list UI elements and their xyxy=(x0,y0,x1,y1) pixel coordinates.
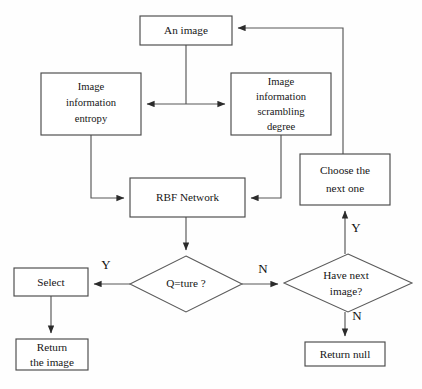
node-select-label: Select xyxy=(37,276,65,288)
edge-label-have-next-yes: Y xyxy=(351,220,361,235)
node-have-next-image-line-2: image? xyxy=(330,285,362,297)
node-an-image[interactable]: An image xyxy=(140,16,232,45)
edge-scrambling-to-rbf xyxy=(251,135,281,198)
node-image-information-entropy-line-2: information xyxy=(66,97,117,108)
node-rbf-network[interactable]: RBF Network xyxy=(130,178,245,217)
node-return-the-image[interactable]: Return the image xyxy=(16,339,88,370)
node-choose-the-next-one-line-1: Choose the xyxy=(320,164,370,176)
edge-label-q-yes: Y xyxy=(101,257,111,272)
node-image-information-scrambling-degree-line-2: information xyxy=(256,91,307,102)
node-image-information-scrambling-degree[interactable]: Image information scrambling degree xyxy=(231,73,331,135)
node-image-information-entropy[interactable]: Image information entropy xyxy=(41,73,141,135)
node-q-is-true[interactable]: Q=ture ? xyxy=(130,256,242,312)
node-return-null-label: Return null xyxy=(320,348,371,360)
node-image-information-scrambling-degree-line-4: degree xyxy=(267,121,296,132)
node-have-next-image-shape xyxy=(284,254,412,312)
edge-label-have-next-no: N xyxy=(352,308,362,323)
node-image-information-scrambling-degree-line-3: scrambling xyxy=(257,106,305,117)
node-choose-the-next-one[interactable]: Choose the next one xyxy=(300,154,390,205)
node-choose-the-next-one-shape xyxy=(300,154,390,205)
node-return-null[interactable]: Return null xyxy=(305,342,385,366)
flowchart-svg: An image Image information entropy Image… xyxy=(0,0,422,389)
node-rbf-network-label: RBF Network xyxy=(156,191,219,203)
flowchart-canvas: An image Image information entropy Image… xyxy=(0,0,422,389)
node-have-next-image-line-1: Have next xyxy=(323,269,370,281)
node-image-information-entropy-line-3: entropy xyxy=(75,113,108,124)
edge-label-q-no: N xyxy=(258,261,268,276)
node-return-the-image-line-1: Return xyxy=(37,341,68,353)
node-choose-the-next-one-line-2: next one xyxy=(326,182,364,194)
node-image-information-entropy-line-1: Image xyxy=(78,81,105,92)
node-return-the-image-line-2: the image xyxy=(30,356,74,368)
node-q-is-true-label: Q=ture ? xyxy=(166,277,206,289)
node-have-next-image[interactable]: Have next image? xyxy=(284,254,412,312)
edge-entropy-to-rbf xyxy=(91,135,124,198)
node-image-information-scrambling-degree-line-1: Image xyxy=(268,76,295,87)
node-select[interactable]: Select xyxy=(14,268,88,296)
node-an-image-label: An image xyxy=(164,24,208,36)
